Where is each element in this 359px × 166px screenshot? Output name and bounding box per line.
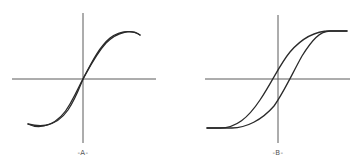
panel-a: -A- — [12, 13, 156, 157]
panel-a-label: -A- — [77, 149, 88, 157]
panel-b: -B- — [205, 15, 350, 157]
panel-b-label: -B- — [272, 149, 283, 157]
hysteresis-figure: -A- -B- — [0, 0, 359, 166]
